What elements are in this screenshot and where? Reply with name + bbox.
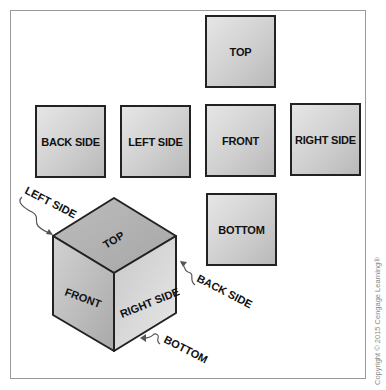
copyright-notice: Copyright © 2015 Cengage Learning® (373, 257, 382, 385)
callout-left-side: LEFT SIDE (23, 184, 79, 220)
callout-bottom: BOTTOM (162, 333, 210, 365)
arrow-bottom-icon (144, 334, 160, 344)
isometric-cube: TOP FRONT RIGHT SIDE LEFT SIDE BACK SIDE… (0, 0, 386, 390)
callout-back-side: BACK SIDE (195, 272, 254, 310)
